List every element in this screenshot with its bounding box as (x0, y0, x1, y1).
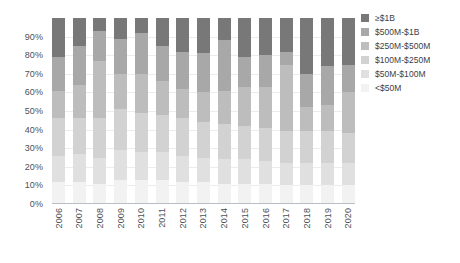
bar-segment[interactable] (135, 152, 148, 180)
bar-segment[interactable] (114, 18, 127, 38)
bar-column[interactable] (300, 18, 313, 204)
bar-segment[interactable] (218, 124, 231, 159)
bar-segment[interactable] (135, 180, 148, 204)
bar-segment[interactable] (342, 163, 355, 185)
bar-segment[interactable] (197, 182, 210, 204)
bar-segment[interactable] (280, 185, 293, 204)
bar-segment[interactable] (114, 74, 127, 109)
bar-segment[interactable] (52, 18, 65, 57)
bar-segment[interactable] (259, 161, 272, 183)
bar-segment[interactable] (156, 152, 169, 180)
bar-segment[interactable] (176, 156, 189, 182)
bar-segment[interactable] (197, 158, 210, 182)
bar-segment[interactable] (321, 66, 334, 105)
bar-segment[interactable] (197, 92, 210, 122)
bar-column[interactable] (73, 18, 86, 204)
bar-segment[interactable] (156, 115, 169, 152)
bar-segment[interactable] (300, 131, 313, 163)
bar-column[interactable] (259, 18, 272, 204)
bar-segment[interactable] (176, 182, 189, 204)
bar-segment[interactable] (259, 184, 272, 204)
legend-item[interactable]: <$50M (361, 81, 459, 95)
bar-segment[interactable] (238, 18, 251, 57)
bar-segment[interactable] (342, 92, 355, 133)
bar-segment[interactable] (114, 39, 127, 74)
bar-segment[interactable] (259, 18, 272, 55)
bar-segment[interactable] (342, 185, 355, 204)
bar-segment[interactable] (300, 107, 313, 131)
bar-segment[interactable] (156, 18, 169, 46)
bar-segment[interactable] (342, 133, 355, 163)
bar-segment[interactable] (93, 118, 106, 157)
bar-segment[interactable] (300, 163, 313, 185)
bar-column[interactable] (52, 18, 65, 204)
legend-item[interactable]: $50M-$100M (361, 67, 459, 81)
bar-segment[interactable] (238, 126, 251, 159)
bar-segment[interactable] (52, 182, 65, 204)
bar-segment[interactable] (218, 159, 231, 183)
bar-segment[interactable] (135, 33, 148, 74)
bar-segment[interactable] (280, 65, 293, 132)
legend-item[interactable]: $500M-$1B (361, 25, 459, 39)
bar-segment[interactable] (73, 18, 86, 46)
bar-segment[interactable] (156, 46, 169, 81)
bar-segment[interactable] (156, 180, 169, 204)
bar-segment[interactable] (321, 18, 334, 66)
bar-segment[interactable] (280, 18, 293, 51)
bar-segment[interactable] (135, 113, 148, 152)
bar-segment[interactable] (259, 55, 272, 87)
bar-segment[interactable] (52, 57, 65, 90)
bar-segment[interactable] (114, 150, 127, 180)
bar-segment[interactable] (93, 184, 106, 204)
bar-segment[interactable] (218, 184, 231, 204)
bar-column[interactable] (197, 18, 210, 204)
bar-segment[interactable] (259, 128, 272, 161)
legend-item[interactable]: ≥$1B (361, 11, 459, 25)
bar-segment[interactable] (321, 131, 334, 163)
bar-segment[interactable] (218, 40, 231, 90)
bar-segment[interactable] (176, 89, 189, 119)
bar-segment[interactable] (73, 182, 86, 204)
bar-segment[interactable] (93, 18, 106, 31)
bar-segment[interactable] (280, 131, 293, 163)
bar-segment[interactable] (321, 163, 334, 185)
bar-segment[interactable] (52, 118, 65, 155)
bar-segment[interactable] (218, 91, 231, 124)
bar-segment[interactable] (342, 65, 355, 93)
bar-segment[interactable] (238, 184, 251, 204)
bar-segment[interactable] (114, 180, 127, 204)
bar-column[interactable] (238, 18, 251, 204)
bar-segment[interactable] (218, 18, 231, 40)
bar-segment[interactable] (321, 105, 334, 131)
legend-item[interactable]: $250M-$500M (361, 39, 459, 53)
bar-segment[interactable] (73, 154, 86, 182)
bar-segment[interactable] (238, 87, 251, 126)
bar-segment[interactable] (93, 31, 106, 61)
bar-segment[interactable] (52, 91, 65, 119)
bar-segment[interactable] (176, 18, 189, 51)
bar-column[interactable] (176, 18, 189, 204)
bar-segment[interactable] (300, 74, 313, 107)
bar-column[interactable] (342, 18, 355, 204)
bar-segment[interactable] (280, 163, 293, 185)
bar-segment[interactable] (197, 53, 210, 92)
bar-segment[interactable] (259, 87, 272, 128)
bar-segment[interactable] (197, 18, 210, 53)
bar-segment[interactable] (156, 81, 169, 114)
bar-segment[interactable] (73, 46, 86, 85)
bar-column[interactable] (156, 18, 169, 204)
bar-segment[interactable] (93, 61, 106, 119)
bar-segment[interactable] (176, 52, 189, 89)
bar-segment[interactable] (300, 185, 313, 204)
bar-column[interactable] (321, 18, 334, 204)
bar-segment[interactable] (73, 118, 86, 153)
bar-segment[interactable] (280, 52, 293, 65)
bar-segment[interactable] (238, 57, 251, 87)
bar-column[interactable] (280, 18, 293, 204)
bar-segment[interactable] (342, 18, 355, 65)
bar-column[interactable] (114, 18, 127, 204)
bar-segment[interactable] (176, 118, 189, 155)
bar-segment[interactable] (321, 185, 334, 204)
bar-segment[interactable] (197, 122, 210, 157)
legend-item[interactable]: $100M-$250M (361, 53, 459, 67)
